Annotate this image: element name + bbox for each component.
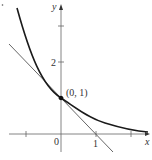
exp-curve — [17, 8, 148, 132]
x-axis-label: x — [144, 136, 150, 147]
tangent-point — [59, 96, 63, 100]
y-axis-label: y — [51, 1, 57, 12]
point-label: (0, 1) — [66, 87, 88, 99]
exp-decay-diagram: (0, 1) 2 1 0 x y — [0, 0, 152, 160]
y-axis-arrow-icon — [59, 4, 63, 10]
x-tick-label-1: 1 — [93, 138, 98, 149]
stray-mark — [2, 4, 4, 6]
y-tick-label-2: 2 — [51, 57, 56, 68]
origin-label: 0 — [54, 136, 59, 147]
